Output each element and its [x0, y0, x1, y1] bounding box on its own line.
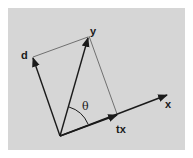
vector-diagram: d y x tx θ — [0, 0, 193, 158]
vector-d — [33, 58, 60, 136]
label-y: y — [90, 25, 97, 37]
vector-tx — [60, 115, 117, 136]
vector-y — [60, 38, 88, 136]
label-theta: θ — [82, 100, 89, 113]
label-tx: tx — [116, 123, 127, 135]
label-d: d — [21, 49, 28, 61]
y-to-tx-line — [89, 36, 117, 114]
d-to-y-line — [33, 37, 88, 57]
label-x: x — [165, 98, 172, 110]
